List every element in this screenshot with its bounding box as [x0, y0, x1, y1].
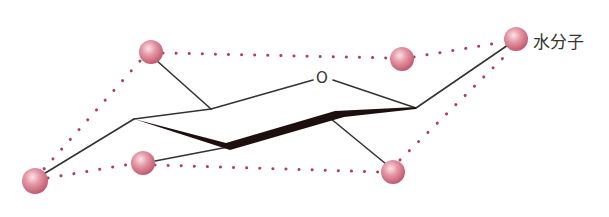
- sugar-ring-bonds: [42, 45, 508, 175]
- water-ball-bottom-left: [22, 168, 48, 194]
- water-network-dotted-lines: [44, 42, 510, 178]
- water-molecules: [22, 27, 528, 194]
- ring-oxygen-label: O: [315, 71, 329, 86]
- water-ball-top-right: [504, 27, 528, 51]
- water-ball-top-left: [139, 40, 163, 64]
- water-ball-top-middle: [390, 47, 414, 71]
- water-molecule-label: 水分子: [533, 28, 584, 53]
- water-ball-bottom-middle: [131, 151, 155, 175]
- water-ball-bottom-right: [381, 160, 405, 184]
- sugar-ring-hydration-diagram: [0, 0, 609, 217]
